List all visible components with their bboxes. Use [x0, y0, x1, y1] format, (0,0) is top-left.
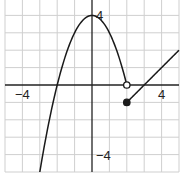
series-piece-2: [127, 50, 179, 102]
open-endpoint: [124, 82, 130, 88]
closed-endpoint: [124, 99, 130, 105]
x-tick-label: 4: [158, 87, 165, 102]
piecewise-function-graph: −444−4: [0, 0, 183, 184]
series-piece-1: [40, 15, 127, 172]
x-tick-label: −4: [15, 87, 30, 102]
y-tick-label: −4: [96, 148, 111, 163]
y-tick-label: 4: [96, 8, 103, 23]
